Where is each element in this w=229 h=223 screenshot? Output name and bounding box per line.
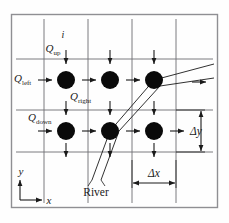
cell-node (145, 71, 163, 89)
label-q-down-base: Q (28, 111, 36, 123)
label-axis-x: x (46, 194, 52, 206)
cell-node (57, 122, 75, 140)
label-cell-index: i (62, 29, 65, 40)
cell-node (101, 71, 119, 89)
label-q-left-base: Q (14, 72, 22, 84)
label-delta-y: Δy (189, 125, 203, 138)
label-delta-x: Δx (147, 167, 161, 179)
label-q-left-sub: left (22, 79, 31, 87)
label-q-down-sub: down (36, 118, 52, 126)
label-q-up-sub: up (53, 49, 61, 57)
cell-node (101, 122, 119, 140)
figure-border (12, 15, 218, 208)
label-axis-y: y (18, 165, 24, 177)
label-q-right-sub: right (78, 97, 91, 105)
label-river: River (83, 186, 109, 198)
figure-root: i Qup Qleft Qright Qdown River Δx Δy y x (0, 0, 229, 223)
label-q-right-base: Q (70, 90, 78, 102)
grid-diagram: i Qup Qleft Qright Qdown River Δx Δy y x (0, 0, 229, 223)
label-q-up-base: Q (46, 42, 54, 54)
cell-node (145, 122, 163, 140)
cell-node (57, 71, 75, 89)
